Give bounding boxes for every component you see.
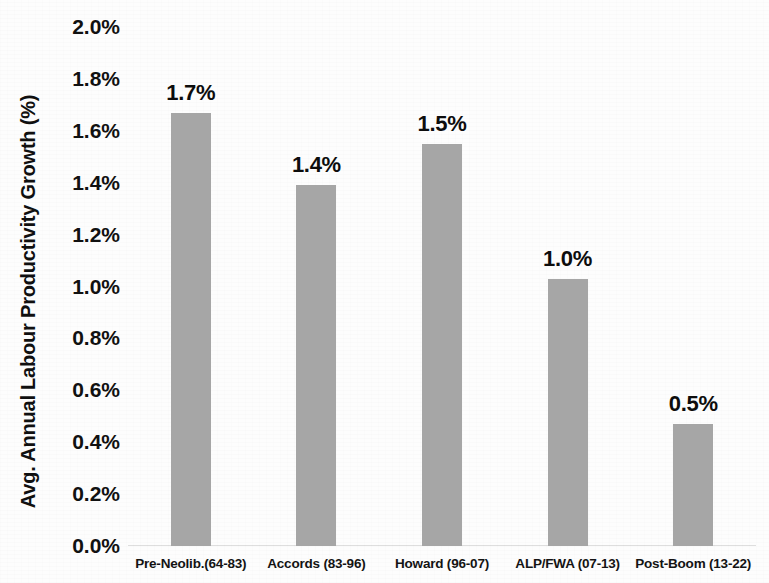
y-axis-tick-2-0pct: 2.0% (36, 15, 120, 39)
y-axis-tick-1-0pct: 1.0% (36, 275, 120, 299)
bar-group: 1.0% (505, 20, 631, 546)
bar-value-label: 1.5% (418, 111, 467, 137)
bar[interactable] (422, 144, 462, 546)
y-axis-tick-0-8pct: 0.8% (36, 326, 120, 350)
bar-value-label: 0.5% (669, 391, 718, 417)
bar[interactable] (171, 113, 211, 546)
bar[interactable] (548, 279, 588, 546)
bar[interactable] (673, 424, 713, 546)
bar-chart: Avg. Annual Labour Productivity Growth (… (0, 0, 769, 583)
y-axis-tick-1-6pct: 1.6% (36, 119, 120, 143)
bar-value-label: 1.4% (292, 152, 341, 178)
x-axis-tick-label: Post-Boom (13-22) (635, 556, 751, 571)
bar-group: 0.5% (630, 20, 756, 546)
y-axis-tick-0-6pct: 0.6% (36, 378, 120, 402)
y-axis-tick-0-2pct: 0.2% (36, 482, 120, 506)
x-axis-tick-label: Howard (96-07) (395, 556, 489, 571)
y-axis-tick-1-2pct: 1.2% (36, 223, 120, 247)
bar-value-label: 1.0% (543, 246, 592, 272)
y-axis-tick-0-0pct: 0.0% (36, 534, 120, 558)
bar-group: 1.4% (254, 20, 380, 546)
y-axis-tick-0-4pct: 0.4% (36, 430, 120, 454)
x-axis-tick-label: Accords (83-96) (267, 556, 365, 571)
bar-group: 1.5% (379, 20, 505, 546)
y-axis-tick-1-8pct: 1.8% (36, 67, 120, 91)
plot-area: 1.7%1.4%1.5%1.0%0.5% (128, 20, 756, 546)
x-axis-tick-label: ALP/FWA (07-13) (515, 556, 620, 571)
bar-value-label: 1.7% (166, 80, 215, 106)
y-axis-tick-1-4pct: 1.4% (36, 171, 120, 195)
x-axis-tick-label: Pre-Neolib.(64-83) (135, 556, 246, 571)
bar-group: 1.7% (128, 20, 254, 546)
bar[interactable] (296, 185, 336, 546)
